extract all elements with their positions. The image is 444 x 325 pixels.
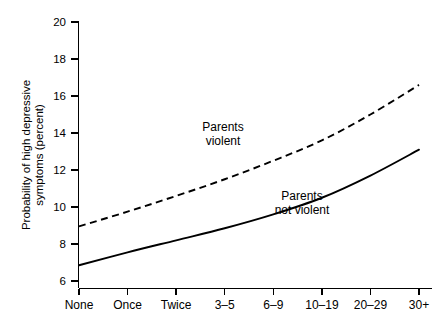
y-tick-label: 6 <box>60 275 66 287</box>
y-tick-label: 16 <box>53 90 66 102</box>
chart-background <box>0 0 444 325</box>
x-tick-label-once: Once <box>113 298 142 312</box>
annotation-parents-not-violent: Parents not violent <box>275 189 330 217</box>
y-tick-label: 20 <box>53 16 66 28</box>
depressive-symptoms-line-chart: 20 18 16 14 12 10 8 6 Probability of hig… <box>0 0 444 325</box>
annotation-parents-violent: Parents violent <box>202 120 243 148</box>
y-tick-label: 18 <box>53 53 66 65</box>
x-tick-label-30plus: 30+ <box>409 298 429 312</box>
x-tick-label-twice: Twice <box>161 298 192 312</box>
y-axis-title-line2: symptoms (percent) <box>33 104 45 206</box>
y-tick-label: 12 <box>53 164 66 176</box>
x-tick-label-6-9: 6–9 <box>263 298 283 312</box>
x-tick-label-10-19: 10–19 <box>305 298 339 312</box>
y-tick-label: 14 <box>53 127 66 139</box>
x-tick-label-3-5: 3–5 <box>215 298 235 312</box>
y-tick-label: 10 <box>53 201 66 213</box>
y-tick-label: 8 <box>60 238 66 250</box>
annotation-parents-not-violent-line1: Parents <box>281 189 322 203</box>
annotation-parents-violent-line1: Parents <box>202 120 243 134</box>
chart-container: 20 18 16 14 12 10 8 6 Probability of hig… <box>0 0 444 325</box>
x-tick-label-none: None <box>65 298 94 312</box>
y-axis-title-line1: Probability of high depressive <box>20 80 32 230</box>
annotation-parents-not-violent-line2: not violent <box>275 203 330 217</box>
annotation-parents-violent-line2: violent <box>206 134 241 148</box>
x-tick-label-20-29: 20–29 <box>354 298 388 312</box>
